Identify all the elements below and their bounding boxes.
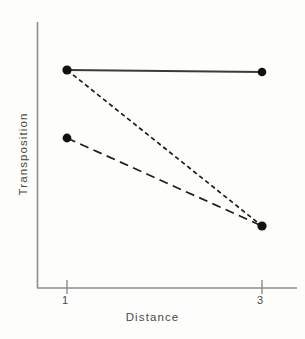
x-axis-title: Distance	[0, 311, 305, 323]
data-point-marker	[258, 68, 267, 77]
series-line-long-dash	[67, 138, 262, 226]
data-point-marker	[63, 134, 72, 143]
transposition-distance-figure: 1 3 Distance Transposition	[0, 0, 305, 339]
x-tick-label-3: 3	[257, 294, 263, 306]
data-point-marker	[257, 221, 266, 230]
data-point-marker	[62, 65, 71, 74]
series-line-solid	[67, 70, 262, 72]
line-chart-plot	[0, 0, 305, 339]
y-axis-title: Transposition	[17, 84, 29, 224]
x-tick-label-1: 1	[62, 294, 68, 306]
series-line-short-dash	[67, 70, 262, 226]
